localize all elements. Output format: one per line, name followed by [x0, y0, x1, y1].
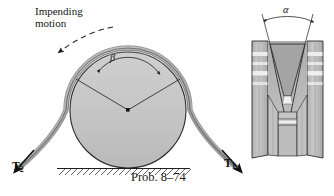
tension-left-subscript: 2	[20, 165, 24, 174]
tension-right-symbol: T	[224, 157, 232, 169]
tension-left-symbol: T	[12, 160, 20, 172]
drum-assembly	[19, 27, 237, 175]
groove-flange-left	[252, 41, 268, 158]
groove-flange-right	[307, 41, 323, 158]
impending-motion-line2: motion	[35, 18, 83, 30]
groove-detail	[252, 14, 323, 158]
problem-figure: Impending motion β α T2 T1 Prob. 8–74	[0, 0, 334, 196]
groove-angle-label: α	[283, 4, 289, 15]
center-dot	[126, 108, 130, 112]
impending-motion-label: Impending motion	[35, 6, 83, 30]
tension-label-right: T1	[224, 157, 236, 172]
impending-motion-arrow	[62, 27, 113, 50]
tension-label-left: T2	[12, 160, 24, 175]
figure-caption: Prob. 8–74	[131, 171, 186, 185]
tension-right-subscript: 1	[232, 162, 236, 171]
groove-angle-dimension	[262, 14, 313, 44]
groove-interior	[268, 41, 307, 156]
wrap-angle-label: β	[110, 52, 115, 63]
